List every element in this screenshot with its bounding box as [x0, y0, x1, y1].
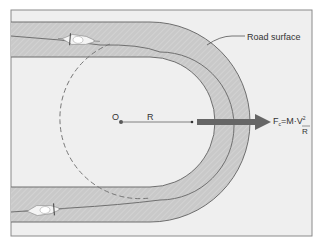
contact-point: [191, 121, 194, 124]
cornering-diagram: Road surface O R Fc=M·V2 R: [0, 0, 318, 244]
road-surface-label: Road surface: [247, 32, 301, 42]
svg-text:Fc=M·V2: Fc=M·V2: [273, 115, 306, 127]
radius-label: R: [147, 112, 154, 122]
svg-text:R: R: [302, 127, 308, 136]
center-label: O: [112, 112, 119, 122]
